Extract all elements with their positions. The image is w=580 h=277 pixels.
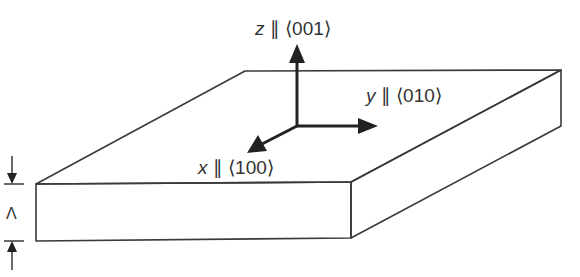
slab-front-face xyxy=(36,182,351,241)
y-axis-arrowhead-icon xyxy=(358,118,378,134)
z-axis-label: z ∥ ⟨001⟩ xyxy=(255,19,331,38)
y-axis-variable: y xyxy=(366,85,376,106)
thickness-up-arrow-icon xyxy=(7,241,17,252)
y-axis-relation: ∥ xyxy=(381,85,391,106)
z-axis-arrowhead-icon xyxy=(289,44,305,63)
thickness-label: Λ xyxy=(6,206,17,222)
y-axis-label: y ∥ ⟨010⟩ xyxy=(366,86,442,105)
axes xyxy=(247,44,378,153)
x-axis-variable: x xyxy=(198,157,208,178)
x-axis-relation: ∥ xyxy=(213,157,223,178)
y-axis-direction: ⟨010⟩ xyxy=(396,85,442,106)
x-axis-label: x ∥ ⟨100⟩ xyxy=(198,158,274,177)
thickness-down-arrow-icon xyxy=(7,173,17,184)
x-axis-line xyxy=(262,126,297,144)
z-axis-variable: z xyxy=(255,18,265,39)
z-axis-relation: ∥ xyxy=(270,18,280,39)
slab-diagram xyxy=(0,0,580,277)
z-axis-direction: ⟨001⟩ xyxy=(285,18,331,39)
x-axis-direction: ⟨100⟩ xyxy=(228,157,274,178)
